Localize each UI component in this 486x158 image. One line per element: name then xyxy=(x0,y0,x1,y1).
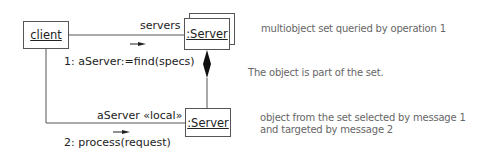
server-local-label: :Server xyxy=(187,116,229,130)
message-1-arrowhead xyxy=(138,42,146,46)
note-selected-line2: and targeted by message 2 xyxy=(260,124,393,136)
local-role-label: aServer «local» xyxy=(97,109,182,122)
message-2-arrowhead xyxy=(122,130,130,134)
collaboration-diagram: client :Server :Server servers 1: aServe… xyxy=(0,0,486,158)
server-multiobject[interactable]: :Server xyxy=(184,18,230,50)
note-selected-line1: object from the set selected by message … xyxy=(260,112,466,124)
message-1-label: 1: aServer:=find(specs) xyxy=(64,55,194,68)
server-local-object[interactable]: :Server xyxy=(185,108,231,137)
server-multiobject-label: :Server xyxy=(186,27,228,41)
composition-diamond-icon xyxy=(203,50,211,78)
note-multiobject: multiobject set queried by operation 1 xyxy=(261,23,446,35)
note-composition: The object is part of the set. xyxy=(248,67,384,79)
client-object-label: client xyxy=(30,28,62,42)
servers-role-label: servers xyxy=(140,19,181,32)
client-object[interactable]: client xyxy=(23,21,69,49)
message-2-label: 2: process(request) xyxy=(64,136,171,149)
